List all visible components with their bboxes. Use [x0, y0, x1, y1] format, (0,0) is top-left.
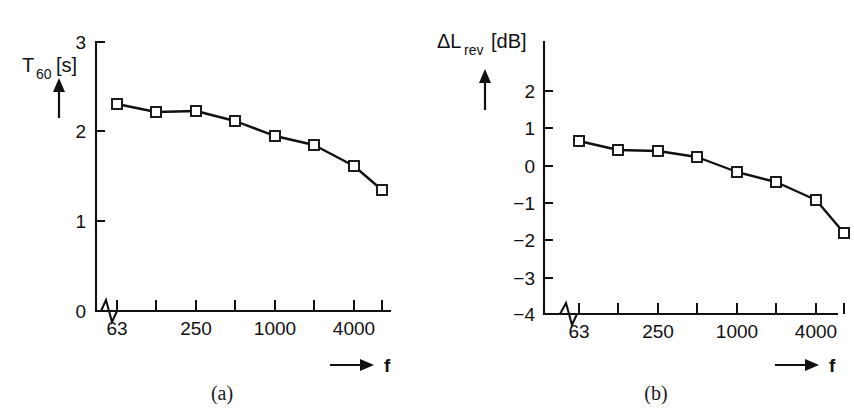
data-point-marker — [377, 185, 387, 195]
y-axis-title-main-a: T — [22, 54, 34, 76]
y-tick-label-0-a: 0 — [75, 301, 86, 322]
x-axis-title-b: f — [775, 355, 836, 376]
panel-caption-b: (b) — [644, 382, 667, 405]
y-axis-title-b: ΔL rev [dB] — [437, 30, 527, 58]
y-axis-title-main-b: ΔL — [437, 30, 461, 52]
y-tick-label-2-a: 2 — [75, 121, 86, 142]
y-tick-label-minus3-b: −3 — [513, 268, 535, 289]
data-point-marker — [151, 107, 161, 117]
x-tick-label-1000-a: 1000 — [254, 318, 296, 339]
figure-container: 3 2 1 0 63 250 1000 4000 T 60 [s — [0, 0, 854, 420]
data-point-marker — [349, 161, 359, 171]
data-point-marker — [653, 146, 663, 156]
x-tick-label-63-b: 63 — [568, 321, 589, 342]
y-axis-title-a: T 60 [s] — [22, 54, 77, 82]
y-axis-direction-arrow-b — [479, 69, 491, 110]
y-tick-label-minus1-b: −1 — [513, 193, 535, 214]
chart-svg-b: 2 1 0 −1 −2 −3 −4 63 250 1000 4000 — [427, 0, 854, 420]
data-point-marker — [270, 131, 280, 141]
x-axis-title-a: f — [330, 355, 391, 376]
x-tick-label-4000-a: 4000 — [333, 318, 375, 339]
data-point-marker — [811, 195, 821, 205]
data-point-marker — [692, 152, 702, 162]
y-axis-direction-arrow-a — [53, 78, 65, 118]
y-tick-label-minus4-b: −4 — [513, 304, 535, 325]
data-point-marker — [191, 106, 201, 116]
y-tick-label-2-b: 2 — [524, 81, 535, 102]
y-tick-label-1-a: 1 — [75, 211, 86, 232]
y-tick-label-0-b: 0 — [524, 156, 535, 177]
data-point-marker — [309, 140, 319, 150]
x-tick-label-250-b: 250 — [642, 321, 674, 342]
y-axis-title-sub-b: rev — [464, 42, 483, 58]
y-axis-title-unit-b: [dB] — [491, 30, 527, 52]
data-point-marker — [771, 177, 781, 187]
data-point-marker — [230, 116, 240, 126]
y-tick-label-1-b: 1 — [524, 118, 535, 139]
x-axis-title-label-b: f — [829, 355, 836, 376]
chart-panel-b: 2 1 0 −1 −2 −3 −4 63 250 1000 4000 — [427, 0, 854, 420]
data-point-marker — [839, 228, 849, 238]
y-tick-label-3-a: 3 — [75, 32, 86, 53]
x-tick-label-63-a: 63 — [106, 318, 127, 339]
data-point-marker — [613, 145, 623, 155]
chart-svg-a: 3 2 1 0 63 250 1000 4000 T 60 [s — [0, 0, 427, 420]
x-axis-title-label-a: f — [384, 355, 391, 376]
x-tick-label-1000-b: 1000 — [716, 321, 758, 342]
chart-panel-a: 3 2 1 0 63 250 1000 4000 T 60 [s — [0, 0, 427, 420]
data-point-marker — [732, 167, 742, 177]
data-point-marker — [112, 99, 122, 109]
y-axis-title-unit-a: [s] — [56, 54, 77, 76]
x-tick-label-250-a: 250 — [180, 318, 212, 339]
x-tick-label-4000-b: 4000 — [795, 321, 837, 342]
panel-caption-a: (a) — [211, 382, 233, 405]
y-axis-title-sub-a: 60 — [36, 66, 52, 82]
data-point-marker — [574, 136, 584, 146]
y-tick-label-minus2-b: −2 — [513, 230, 535, 251]
